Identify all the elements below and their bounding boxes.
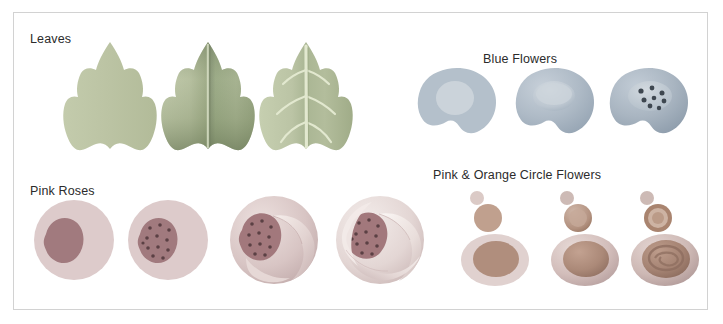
circle-flower-stage-flat-stack xyxy=(455,188,537,288)
rose-stage-core-dots xyxy=(126,196,210,284)
circle-flower-stage-detailed-stack xyxy=(625,188,707,288)
rose-stage-circle-core xyxy=(32,196,116,284)
leaf-stage-flat-silhouette xyxy=(60,40,160,152)
rose-stage-full-petals xyxy=(332,192,428,288)
rose-stage-one-petal xyxy=(226,192,322,288)
section-label-blue-flowers: Blue Flowers xyxy=(483,52,557,66)
blue-flower-stage-stamens xyxy=(607,66,691,136)
bloom-inner xyxy=(473,241,519,277)
blue-flower-stage-shaded xyxy=(513,66,597,136)
reference-sheet-canvas: Leaves xyxy=(0,0,723,324)
leaf-stage-veined xyxy=(256,40,356,152)
leaf-stage-shaded-midrib xyxy=(158,40,258,152)
blue-flower-stage-flat-blob xyxy=(415,66,499,136)
bud-small xyxy=(470,191,484,205)
circle-flower-stage-shaded-stack xyxy=(545,188,627,288)
section-label-circle-flowers: Pink & Orange Circle Flowers xyxy=(433,168,601,182)
bud-medium xyxy=(474,204,502,232)
